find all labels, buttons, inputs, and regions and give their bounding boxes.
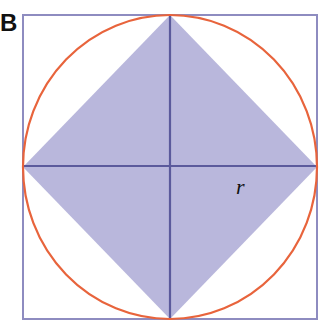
geometry-diagram	[0, 0, 321, 327]
radius-label: r	[236, 176, 245, 198]
